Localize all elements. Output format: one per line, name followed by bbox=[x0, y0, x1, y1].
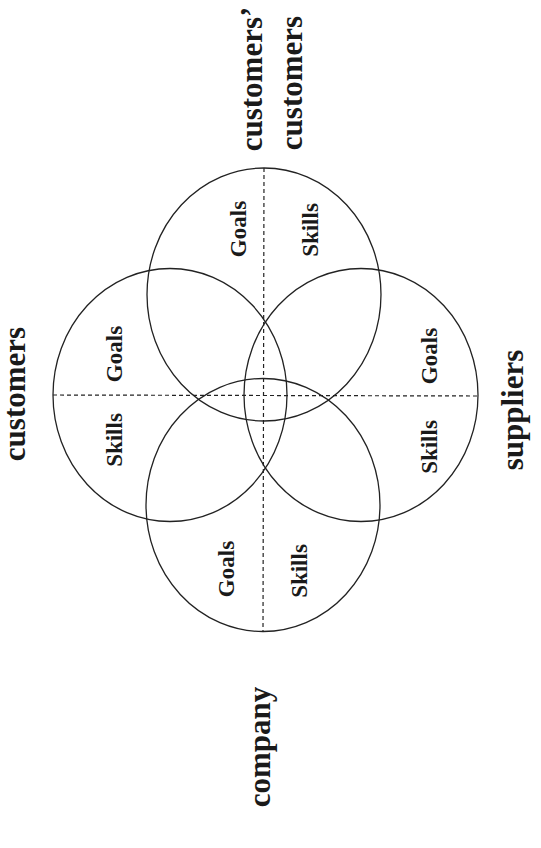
right-circle-skills-label: Skills bbox=[417, 420, 442, 474]
label-company: company bbox=[242, 686, 277, 807]
top-circle-goals-label: Goals bbox=[226, 201, 251, 257]
label-customers-customers-line1: customers’ bbox=[234, 7, 269, 152]
label-customers-customers-line2: customers bbox=[274, 16, 309, 150]
right-circle-goals-label: Goals bbox=[417, 328, 442, 384]
label-suppliers: suppliers bbox=[495, 350, 530, 471]
left-circle-goals-label: Goals bbox=[102, 326, 127, 382]
left-circle-skills-label: Skills bbox=[102, 413, 127, 467]
top-circle-skills-label: Skills bbox=[298, 203, 323, 257]
bottom-circle-goals-label: Goals bbox=[214, 541, 239, 597]
label-customers: customers bbox=[0, 327, 32, 461]
bottom-circle-skills-label: Skills bbox=[287, 544, 312, 598]
horizontal-dashed-divider bbox=[53, 395, 478, 396]
vertical-dashed-divider bbox=[263, 168, 264, 632]
goals-skills-diagram: customers’ customers customers suppliers… bbox=[0, 0, 541, 848]
